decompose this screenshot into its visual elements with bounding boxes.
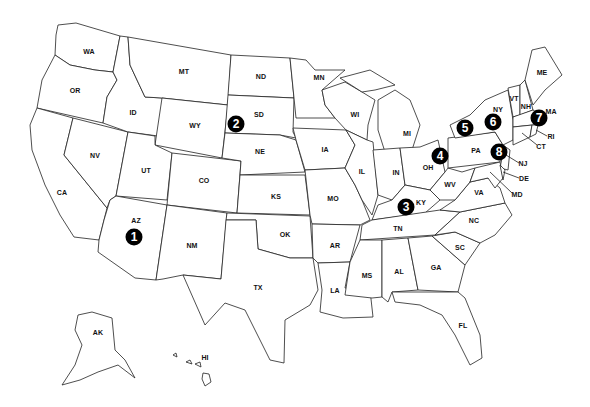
state-label-az: AZ bbox=[131, 217, 141, 224]
state-label-mo: MO bbox=[327, 195, 338, 202]
state-label-mt: MT bbox=[179, 68, 189, 75]
state-label-tn: TN bbox=[393, 225, 403, 232]
state-label-de: DE bbox=[519, 175, 529, 182]
state-label-vt: VT bbox=[509, 95, 518, 102]
state-label-il: IL bbox=[359, 168, 365, 175]
state-label-wv: WV bbox=[444, 181, 455, 188]
state-label-ma: MA bbox=[545, 108, 556, 115]
location-marker-8[interactable]: 8 bbox=[491, 144, 508, 161]
state-label-la: LA bbox=[330, 287, 340, 294]
state-label-md: MD bbox=[511, 191, 522, 198]
state-label-oh: OH bbox=[423, 164, 434, 171]
state-label-nd: ND bbox=[256, 73, 266, 80]
state-ak[interactable] bbox=[62, 312, 135, 385]
state-label-al: AL bbox=[394, 268, 404, 275]
state-label-ri: RI bbox=[547, 133, 554, 140]
state-label-ak: AK bbox=[93, 329, 103, 336]
state-label-mi: MI bbox=[403, 130, 411, 137]
state-label-ms: MS bbox=[362, 272, 373, 279]
state-label-wy: WY bbox=[189, 122, 200, 129]
state-label-ar: AR bbox=[330, 242, 340, 249]
state-label-ct: CT bbox=[536, 143, 546, 150]
state-label-ia: IA bbox=[321, 146, 328, 153]
state-label-ca: CA bbox=[57, 189, 67, 196]
state-label-ky: KY bbox=[416, 199, 426, 206]
state-fl[interactable] bbox=[392, 292, 482, 365]
state-label-mn: MN bbox=[313, 74, 324, 81]
state-label-me: ME bbox=[537, 69, 548, 76]
location-marker-1[interactable]: 1 bbox=[126, 229, 143, 246]
us-map bbox=[0, 0, 590, 407]
location-marker-2[interactable]: 2 bbox=[228, 116, 245, 133]
state-ct[interactable] bbox=[513, 125, 532, 145]
state-label-sd: SD bbox=[254, 111, 264, 118]
state-label-ny: NY bbox=[493, 106, 503, 113]
state-label-nj: NJ bbox=[518, 160, 527, 167]
state-label-va: VA bbox=[474, 189, 483, 196]
state-label-wa: WA bbox=[83, 48, 94, 55]
state-label-hi: HI bbox=[201, 354, 208, 361]
state-label-nv: NV bbox=[90, 152, 100, 159]
state-label-in: IN bbox=[392, 169, 399, 176]
location-marker-3[interactable]: 3 bbox=[398, 199, 415, 216]
state-label-tx: TX bbox=[253, 284, 262, 291]
state-label-wi: WI bbox=[351, 111, 360, 118]
state-label-or: OR bbox=[70, 87, 81, 94]
state-label-nh: NH bbox=[521, 103, 531, 110]
state-label-nm: NM bbox=[186, 242, 197, 249]
state-label-nc: NC bbox=[469, 217, 479, 224]
location-marker-4[interactable]: 4 bbox=[432, 148, 449, 165]
state-label-id: ID bbox=[129, 109, 136, 116]
state-outlines bbox=[30, 23, 562, 386]
state-label-ok: OK bbox=[280, 231, 291, 238]
state-label-ga: GA bbox=[431, 264, 442, 271]
state-label-pa: PA bbox=[471, 147, 480, 154]
state-me[interactable] bbox=[525, 47, 562, 105]
location-marker-7[interactable]: 7 bbox=[531, 110, 548, 127]
state-label-co: CO bbox=[199, 177, 210, 184]
location-marker-6[interactable]: 6 bbox=[485, 114, 502, 131]
state-label-fl: FL bbox=[459, 322, 468, 329]
state-label-ut: UT bbox=[141, 167, 151, 174]
state-label-sc: SC bbox=[455, 244, 465, 251]
state-label-ne: NE bbox=[255, 148, 265, 155]
state-label-ks: KS bbox=[271, 193, 281, 200]
location-marker-5[interactable]: 5 bbox=[457, 120, 474, 137]
